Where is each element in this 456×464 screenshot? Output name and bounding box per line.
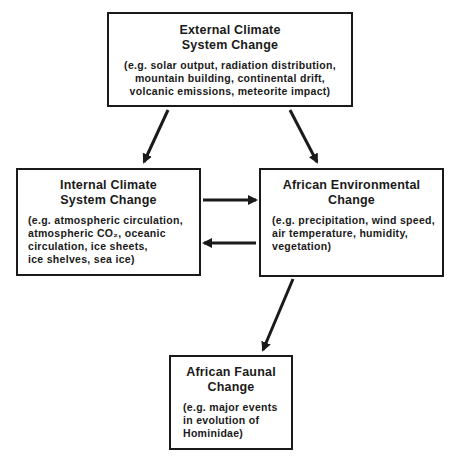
title-line: System Change xyxy=(28,193,189,208)
node-title: African Environmental Change xyxy=(272,178,442,208)
node-examples: (e.g. solar output, radiation distributi… xyxy=(109,59,351,98)
example-line: mountain building, continental drift, xyxy=(109,72,351,85)
title-line: African Environmental xyxy=(272,178,431,193)
arrow-external-to-internal xyxy=(144,110,168,162)
title-line: External Climate xyxy=(109,23,351,38)
example-line: (e.g. atmospheric circulation, xyxy=(28,214,199,227)
node-title: External Climate System Change xyxy=(109,23,351,53)
example-line: Hominidae) xyxy=(183,427,291,440)
example-line: circulation, ice sheets, xyxy=(28,240,199,253)
title-line: System Change xyxy=(109,38,351,53)
example-line: (e.g. solar output, radiation distributi… xyxy=(109,59,351,72)
example-line: in evolution of xyxy=(183,414,291,427)
example-line: volcanic emissions, meteorite impact) xyxy=(109,85,351,98)
title-line: Change xyxy=(272,193,431,208)
example-line: air temperature, humidity, xyxy=(272,227,442,240)
node-examples: (e.g. atmospheric circulation, atmospher… xyxy=(28,214,199,266)
node-african-environmental-change: African Environmental Change (e.g. preci… xyxy=(259,168,444,277)
example-line: (e.g. precipitation, wind speed, xyxy=(272,214,442,227)
example-line: atmospheric CO₂, oceanic xyxy=(28,227,199,240)
node-title: African Faunal Change xyxy=(183,365,291,395)
example-line: vegetation) xyxy=(272,240,442,253)
title-line: Internal Climate xyxy=(28,178,189,193)
node-examples: (e.g. precipitation, wind speed, air tem… xyxy=(272,214,442,253)
node-title: Internal Climate System Change xyxy=(28,178,199,208)
example-line: (e.g. major events xyxy=(183,401,291,414)
example-line: ice shelves, sea ice) xyxy=(28,253,199,266)
arrow-external-to-african-env xyxy=(290,110,317,162)
node-african-faunal-change: African Faunal Change (e.g. major events… xyxy=(169,355,293,450)
node-examples: (e.g. major events in evolution of Homin… xyxy=(183,401,291,440)
title-line: Change xyxy=(183,380,279,395)
node-internal-climate-system-change: Internal Climate System Change (e.g. atm… xyxy=(16,168,201,276)
arrow-african-env-to-faunal xyxy=(263,279,293,350)
node-external-climate-system-change: External Climate System Change (e.g. sol… xyxy=(107,12,353,107)
title-line: African Faunal xyxy=(183,365,279,380)
